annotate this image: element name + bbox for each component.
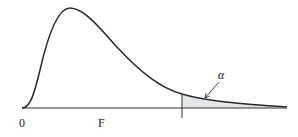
x-axis-label: F	[98, 117, 105, 129]
alpha-pointer-arrow	[205, 82, 219, 98]
f-distribution-diagram	[0, 0, 298, 137]
alpha-label: α	[218, 69, 224, 81]
density-curve	[22, 8, 287, 108]
origin-label: 0	[19, 117, 25, 129]
